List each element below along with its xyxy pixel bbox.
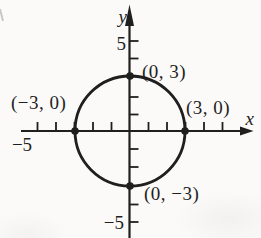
point-label-neg3-0: (−3, 0) [11,92,66,114]
figure-canvas: y x 5 −5 −5 (0, 3) (−3, 0) (3, 0) (0, −3… [0,0,261,238]
scan-artifact-mark [0,9,3,21]
point-dot-0-neg3 [126,182,134,190]
point-label-0-3: (0, 3) [142,61,186,83]
point-dot-0-3 [126,72,134,80]
y-tick-label-5: 5 [117,33,127,54]
x-tick-label-neg5: −5 [12,134,32,155]
math-figure-circle-graph: y x 5 −5 −5 (0, 3) (−3, 0) (3, 0) (0, −3… [0,0,261,238]
x-axis-label: x [245,108,255,129]
y-tick-label-neg5: −5 [104,212,124,233]
point-dot-neg3-0 [71,127,79,135]
point-label-0-neg3: (0, −3) [144,183,199,205]
point-dot-3-0 [181,127,189,135]
y-axis-label: y [117,6,128,27]
point-label-3-0: (3, 0) [186,97,230,119]
